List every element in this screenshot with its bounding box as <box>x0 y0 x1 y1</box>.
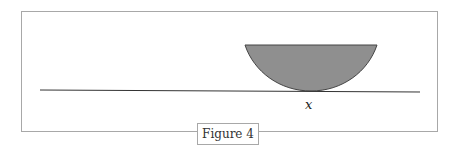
point-label-x: x <box>305 97 312 112</box>
semicircle-bowl <box>245 45 377 91</box>
baseline <box>40 90 420 92</box>
figure-caption: Figure 4 <box>197 123 259 145</box>
